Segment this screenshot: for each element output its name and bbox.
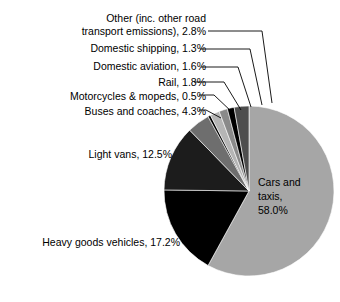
slice-label-light-vans: Light vans, 12.5% [0,148,172,161]
slice-label-domestic-aviation: Domestic aviation, 1.6% [93,60,206,73]
slice-label-buses: Buses and coaches, 4.3% [85,105,206,118]
leader-line-domestic-shipping [200,49,262,105]
slice-label-domestic-shipping: Domestic shipping, 1.3% [90,42,206,55]
slice-label-other-line2: transport emissions), 2.8% [0,25,206,38]
slice-label-rail: Rail, 1.8% [158,76,206,89]
slice-label-other: Other (inc. other road transport emissio… [0,12,206,39]
slice-label-cars-line3: 58.0% [258,203,336,217]
leader-line-domestic-aviation [201,67,251,107]
slice-label-motorcycles: Motorcycles & mopeds, 0.5% [70,90,206,103]
slice-label-other-line1: Other (inc. other road [0,12,206,25]
slice-label-cars-line1: Cars and [258,175,336,189]
pie-chart-figure: Other (inc. other road transport emissio… [0,0,340,302]
slice-label-cars-and-taxis: Cars and taxis, 58.0% [258,175,336,217]
slice-label-cars-line2: taxis, [258,189,336,203]
slice-label-heavy-goods-vehicles: Heavy goods vehicles, 17.2% [0,236,180,249]
